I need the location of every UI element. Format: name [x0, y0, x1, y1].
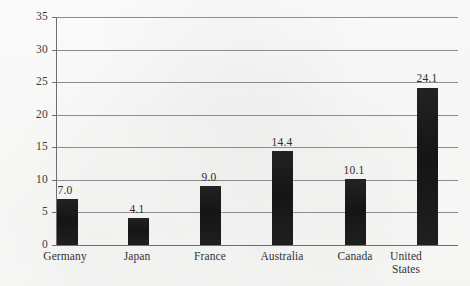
bar-value-japan: 4.1 [107, 204, 167, 216]
bar-value-united-states: 24.1 [397, 73, 457, 85]
bar-value-germany: 7.0 [35, 185, 95, 197]
bar-germany [57, 199, 78, 245]
y-axis-tick-labels: 35 30 25 20 15 10 5 0 [15, 0, 48, 286]
y-axis-label-25: 25 [20, 76, 48, 88]
bar-australia [272, 151, 293, 245]
y-axis-label-35: 35 [20, 11, 48, 23]
y-axis-label-10: 10 [20, 174, 48, 186]
gridline-30 [57, 50, 458, 51]
bar-japan [128, 218, 149, 245]
bar-france [200, 186, 221, 245]
y-axis-label-30: 30 [20, 44, 48, 56]
bar-canada [345, 179, 366, 245]
x-axis-category-labels: Germany Japan France Australia Canada Un… [0, 250, 470, 286]
bar-chart: 35 30 25 20 15 10 5 0 7.0 4.1 9.0 14.4 1… [0, 0, 470, 286]
gridline-20 [57, 115, 458, 116]
gridline-baseline-0 [57, 245, 458, 246]
gridline-35 [57, 17, 458, 18]
y-axis-label-15: 15 [20, 141, 48, 153]
y-axis-label-20: 20 [20, 109, 48, 121]
bar-value-canada: 10.1 [324, 165, 384, 177]
bar-value-france: 9.0 [179, 172, 239, 184]
y-axis-label-5: 5 [20, 206, 48, 218]
gridline-10 [57, 180, 458, 181]
bar-value-australia: 14.4 [252, 137, 312, 149]
x-axis-label-united-states: United States [383, 250, 429, 275]
y-axis-label-0: 0 [20, 239, 48, 251]
bar-united-states [417, 88, 438, 245]
